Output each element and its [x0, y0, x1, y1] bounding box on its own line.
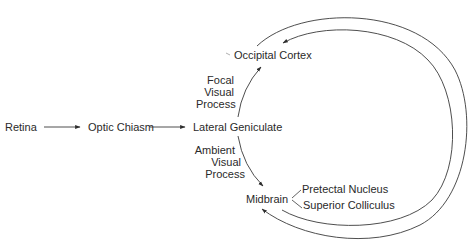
ambient-label-line-3: Process	[190, 168, 245, 180]
focal-label-line-1: Focal	[196, 74, 234, 86]
ambient-label-line-2: Visual	[190, 156, 245, 168]
occipital-tick	[226, 53, 230, 55]
visual-pathway-diagram: Retina Optic Chiasm Lateral Geniculate O…	[0, 0, 473, 244]
ambient-label-line-1: Ambient	[190, 144, 245, 156]
node-optic-chiasm: Optic Chiasm	[88, 121, 154, 133]
branch-to-pretectal	[292, 190, 301, 198]
node-lateral-geniculate: Lateral Geniculate	[193, 121, 282, 133]
focal-visual-process-label: Focal Visual Process	[196, 74, 234, 110]
node-retina: Retina	[5, 121, 37, 133]
node-pretectal-nucleus: Pretectal Nucleus	[302, 183, 388, 195]
ambient-visual-process-label: Ambient Visual Process	[190, 144, 245, 180]
node-midbrain: Midbrain	[246, 193, 288, 205]
arrow-focal-pathway	[238, 67, 261, 117]
node-superior-colliculus: Superior Colliculus	[303, 199, 395, 211]
branch-to-colliculus	[292, 200, 302, 208]
node-occipital-cortex: Occipital Cortex	[234, 49, 312, 61]
focal-label-line-3: Process	[196, 98, 234, 110]
focal-label-line-2: Visual	[196, 86, 234, 98]
